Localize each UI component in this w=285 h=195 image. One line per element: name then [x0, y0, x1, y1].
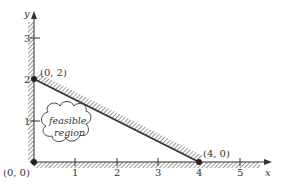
y-tick-label-2: 2	[24, 74, 30, 85]
vertex-label-origin: (0, 0)	[3, 167, 30, 178]
vertex-4-0	[196, 159, 202, 165]
y-tick-label-1: 1	[24, 116, 30, 127]
y-tick-label-3: 3	[24, 33, 30, 44]
x-tick-label-5: 5	[237, 167, 243, 178]
x-tick-label-4: 4	[196, 167, 202, 178]
x-axis-label: x	[265, 167, 271, 178]
y-axis-arrow-icon	[31, 11, 37, 19]
x-tick-label-3: 3	[155, 167, 161, 178]
x-axis-constraint-hatch	[34, 162, 260, 168]
vertex-0-2	[31, 76, 37, 82]
x-axis-arrow-icon	[264, 159, 272, 165]
feasible-region-label-line1: feasible	[48, 115, 87, 126]
feasible-region-diagram: 1 2 3 4 5 1 2 3 x y (0, 0) (0, 2) (4, 0)…	[0, 0, 285, 195]
vertex-label-0-2: (0, 2)	[40, 67, 67, 78]
vertex-origin	[31, 159, 37, 165]
x-tick-label-2: 2	[114, 167, 120, 178]
x-tick-label-1: 1	[72, 167, 78, 178]
y-axis-label: y	[23, 8, 30, 19]
vertex-label-4-0: (4, 0)	[203, 148, 230, 159]
feasible-region-label-line2: region	[54, 127, 85, 138]
